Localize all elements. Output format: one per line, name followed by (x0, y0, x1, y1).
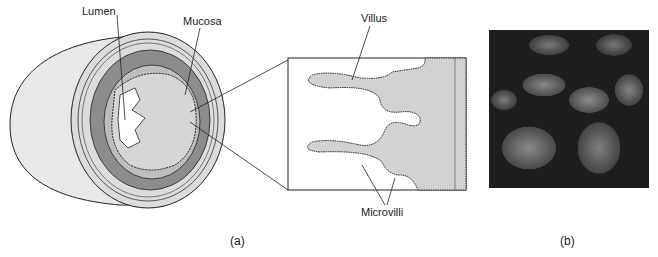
label-lumen: Lumen (82, 5, 116, 17)
sem-micrograph (489, 30, 649, 188)
caption-b: (b) (560, 234, 575, 248)
label-villus: Villus (361, 12, 387, 24)
label-microvilli: Microvilli (361, 206, 403, 218)
caption-a: (a) (230, 234, 245, 248)
label-mucosa: Mucosa (183, 15, 222, 27)
